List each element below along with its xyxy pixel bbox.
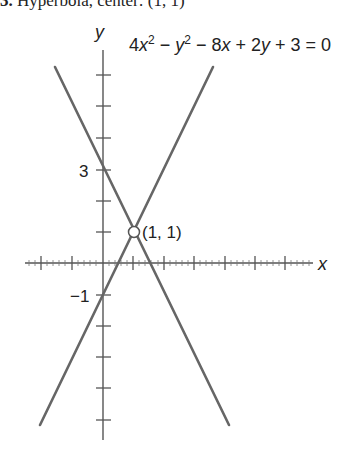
equation-label: 4x2 − y2 − 8x + 2y + 3 = 0 xyxy=(129,33,331,55)
line-positive-slope xyxy=(40,67,213,425)
axes xyxy=(25,50,313,440)
y-axis-label: y xyxy=(93,22,105,42)
y-tick-label-neg1: −1 xyxy=(70,287,89,306)
line-negative-slope xyxy=(55,67,229,425)
asymptote-lines xyxy=(40,67,229,425)
hyperbola-chart: y x 3 −1 (1, 1) 4x2 − y2 − 8x + 2y + 3 =… xyxy=(0,0,361,455)
y-tick-label-3: 3 xyxy=(79,162,88,181)
point-label: (1, 1) xyxy=(142,223,182,242)
center-point-marker xyxy=(129,227,140,238)
x-axis-label: x xyxy=(317,254,328,274)
